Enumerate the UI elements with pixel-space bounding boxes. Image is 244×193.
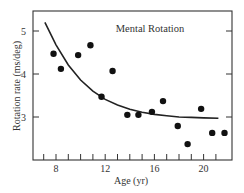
x-axis-label: Age (yr) [114,175,148,187]
data-point [135,112,141,118]
data-point [160,98,166,104]
x-tick-label: 20 [199,163,209,174]
x-tick-label: 12 [100,163,110,174]
data-points [50,42,227,147]
data-point [175,123,181,129]
data-point [184,141,190,147]
fit-curve [45,22,219,118]
mental-rotation-chart: 8121620 345 Mental Rotation Age (yr) Rot… [0,0,244,193]
data-point [209,130,215,136]
data-point [198,106,204,112]
data-point [75,52,81,58]
y-axis-label: Rotation rate (ms/deg) [11,41,23,131]
x-axis-ticks: 8121620 [44,154,216,174]
data-point [124,112,130,118]
y-tick-label: 5 [21,26,26,37]
data-point [221,130,227,136]
data-point [50,51,56,57]
data-point [98,94,104,100]
x-tick-label: 16 [149,163,159,174]
data-point [149,109,155,115]
chart-title: Mental Rotation [116,23,185,34]
data-point [87,42,93,48]
data-point [109,68,115,74]
data-point [58,66,64,72]
x-tick-label: 8 [54,163,59,174]
